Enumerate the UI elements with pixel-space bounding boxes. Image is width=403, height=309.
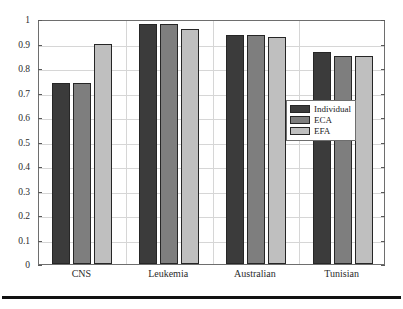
legend-label-efa: EFA <box>314 126 330 136</box>
y-axis-tick-mark <box>38 143 42 144</box>
y-axis-tick-mark <box>38 192 42 193</box>
bar <box>334 56 352 264</box>
y-axis-tick-mark <box>38 45 42 46</box>
bar-group <box>126 21 213 264</box>
legend-swatch-eca <box>290 116 310 124</box>
y-axis-tick-labels: 00.10.20.30.40.50.60.70.80.91 <box>0 20 34 265</box>
bar <box>94 44 112 265</box>
legend-item-efa: EFA <box>290 126 351 136</box>
x-axis-tick-labels: CNSLeukemiaAustralianTunisian <box>38 268 385 288</box>
y-axis-tick-label: 0.9 <box>18 40 30 50</box>
bar <box>52 83 70 264</box>
legend-label-individual: Individual <box>314 104 351 114</box>
y-axis-tick-mark <box>38 118 42 119</box>
y-axis-tick-mark-right <box>381 45 385 46</box>
y-axis-tick-mark-right <box>381 118 385 119</box>
y-axis-tick-mark <box>38 216 42 217</box>
y-axis-tick-label: 0 <box>25 260 30 270</box>
y-axis-tick-mark-right <box>381 69 385 70</box>
y-axis-tick-mark-right <box>381 216 385 217</box>
legend-label-eca: ECA <box>314 115 332 125</box>
y-axis-tick-mark-right <box>381 192 385 193</box>
y-axis-tick-label: 0.7 <box>18 89 30 99</box>
y-axis-tick-mark <box>38 167 42 168</box>
y-axis-tick-label: 0.4 <box>18 162 30 172</box>
bar <box>73 83 91 264</box>
y-axis-tick-mark <box>38 265 42 266</box>
y-axis-tick-mark-right <box>381 143 385 144</box>
legend-swatch-individual <box>290 105 310 113</box>
y-axis-tick-label: 1 <box>25 15 30 25</box>
x-axis-tick-label: CNS <box>72 268 91 279</box>
bars-layer <box>39 21 384 264</box>
y-axis-tick-label: 0.1 <box>18 236 30 246</box>
bar-group <box>213 21 300 264</box>
bar-group <box>299 21 386 264</box>
y-axis-tick-mark-right <box>381 241 385 242</box>
y-axis-tick-mark-right <box>381 20 385 21</box>
legend-item-eca: ECA <box>290 115 351 125</box>
y-axis-tick-label: 0.5 <box>18 138 30 148</box>
legend-item-individual: Individual <box>290 104 351 114</box>
y-axis-tick-label: 0.6 <box>18 113 30 123</box>
y-axis-tick-mark <box>38 241 42 242</box>
chart-legend: Individual ECA EFA <box>286 100 356 141</box>
legend-swatch-efa <box>290 127 310 135</box>
x-axis-tick-label: Tunisian <box>324 268 359 279</box>
bar <box>355 56 373 264</box>
bar <box>226 35 244 264</box>
y-axis-tick-label: 0.2 <box>18 211 30 221</box>
y-axis-tick-mark-right <box>381 167 385 168</box>
bar <box>247 35 265 264</box>
y-axis-tick-mark-right <box>381 94 385 95</box>
x-axis-tick-label: Leukemia <box>148 268 188 279</box>
y-axis-tick-mark <box>38 20 42 21</box>
bar <box>160 24 178 264</box>
x-axis-tick-label: Australian <box>234 268 276 279</box>
bar-group <box>39 21 126 264</box>
bar <box>268 37 286 264</box>
bar <box>139 24 157 264</box>
y-axis-tick-mark-right <box>381 265 385 266</box>
bar-chart-figure: 00.10.20.30.40.50.60.70.80.91 CNSLeukemi… <box>0 0 403 309</box>
plot-area <box>38 20 385 265</box>
y-axis-tick-label: 0.8 <box>18 64 30 74</box>
y-axis-tick-mark <box>38 69 42 70</box>
bottom-divider-rule <box>2 296 401 299</box>
bar <box>313 52 331 264</box>
y-axis-tick-label: 0.3 <box>18 187 30 197</box>
y-axis-tick-mark <box>38 94 42 95</box>
bar <box>181 29 199 264</box>
